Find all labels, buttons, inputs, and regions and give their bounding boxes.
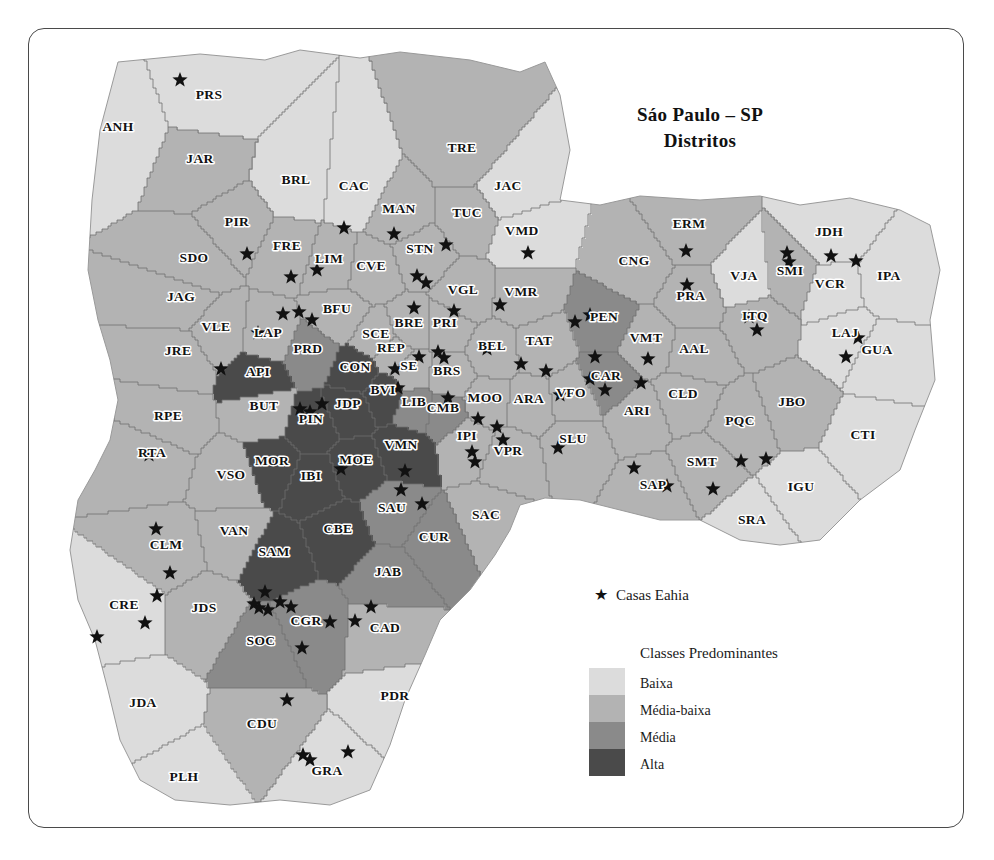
legend-class-label-2: Média [640,730,676,746]
district-label-JRE: JRE [165,343,192,358]
district-label-RPE: RPE [154,408,182,423]
legend: ★ Casas Eahia [586,584,886,606]
district-label-VPR: VPR [494,443,523,458]
district-label-IPI: IPI [457,428,477,443]
district-label-STN: STN [406,241,433,256]
district-label-SAC: SAC [472,507,500,522]
district-label-CUR: CUR [419,529,449,544]
district-label-CAR: CAR [591,368,621,383]
district-label-CBE: CBE [324,521,353,536]
district-label-IPA: IPA [877,268,900,283]
district-label-API: API [246,364,270,379]
district-label-JDH: JDH [815,224,843,239]
district-label-SRA: SRA [738,512,766,527]
legend-swatch-3 [589,749,625,776]
district-label-JDP: JDP [335,396,361,411]
district-label-JAC: JAC [494,178,521,193]
district-CAD[interactable] [342,604,517,677]
legend-point-row: ★ Casas Eahia [586,584,886,606]
district-label-IBI: IBI [301,468,322,483]
district-label-CLD: CLD [668,386,698,401]
district-label-CAC: CAC [339,178,369,193]
district-label-VJA: VJA [730,268,757,283]
district-label-VMR: VMR [504,284,537,299]
district-choropleth-map[interactable]: ANHPRSJARBRLCACTREJACMANTUCVMDPIRFRELIMC… [0,0,994,860]
district-label-CDU: CDU [247,716,277,731]
district-label-GUA: GUA [861,342,892,357]
legend-class-label-1: Média-baixa [640,703,711,719]
district-label-LAJ: LAJ [832,325,859,340]
district-label-CAD: CAD [370,620,400,635]
district-label-PLH: PLH [170,769,199,784]
district-label-JAR: JAR [186,151,213,166]
district-label-PRA: PRA [677,288,706,303]
district-label-CMB: CMB [427,400,460,415]
district-label-CNG: CNG [618,253,649,268]
district-label-ARI: ARI [624,403,650,418]
district-label-BVI: BVI [370,382,395,397]
district-label-PQC: PQC [725,413,755,428]
legend-point-label: Casas Eahia [616,587,689,604]
district-label-MOO: MOO [468,390,503,405]
district-label-JAB: JAB [375,564,402,579]
district-label-BRL: BRL [282,172,311,187]
district-label-GRA: GRA [311,763,342,778]
district-label-LAP: LAP [254,325,282,340]
district-label-VGL: VGL [448,282,478,297]
district-label-PEN: PEN [590,309,618,324]
district-label-PRI: PRI [433,315,457,330]
district-label-JDS: JDS [191,600,216,615]
district-label-VMN: VMN [384,437,417,452]
district-label-CRE: CRE [109,597,139,612]
legend-swatch-0 [589,668,625,695]
district-label-SAU: SAU [378,500,406,515]
district-label-VCR: VCR [815,276,845,291]
district-label-ITQ: ITQ [742,308,768,323]
district-label-FRE: FRE [273,238,301,253]
district-label-BRS: BRS [433,363,460,378]
legend-classes-title: Classes Predominantes [640,645,778,662]
star-icon: ★ [586,587,616,603]
district-label-TRE: TRE [448,140,477,155]
district-label-VAN: VAN [220,523,249,538]
district-label-SAM: SAM [258,544,289,559]
district-label-CLM: CLM [150,537,183,552]
district-label-VLE: VLE [202,319,231,334]
district-label-LIM: LIM [315,251,343,266]
district-label-SLU: SLU [559,431,586,446]
district-label-CON: CON [339,359,370,374]
district-label-BUT: BUT [250,398,279,413]
district-label-ERM: ERM [673,216,706,231]
district-label-REP: REP [377,340,405,355]
legend-swatches [589,668,625,776]
district-label-TUC: TUC [452,205,482,220]
legend-swatch-1 [589,695,625,722]
district-label-SDO: SDO [180,250,209,265]
district-label-VSO: VSO [217,467,246,482]
map-container: ANHPRSJARBRLCACTREJACMANTUCVMDPIRFRELIMC… [0,0,994,860]
district-label-SMT: SMT [687,454,717,469]
legend-class-label-0: Baixa [640,676,673,692]
district-label-VMD: VMD [505,223,538,238]
district-label-VMT: VMT [630,330,663,345]
district-label-CGR: CGR [290,613,321,628]
district-label-AAL: AAL [679,341,709,356]
district-label-ANH: ANH [102,119,133,134]
district-label-ARA: ARA [514,391,544,406]
district-label-SE: SE [400,358,417,373]
district-label-PDR: PDR [381,688,410,703]
district-label-RTA: RTA [138,445,166,460]
legend-class-label-3: Alta [640,757,664,773]
map-title-line2: Distritos [600,130,800,152]
district-label-SAP: SAP [640,477,667,492]
district-label-JDA: JDA [129,695,156,710]
district-label-LIB: LIB [402,394,426,409]
district-label-IGU: IGU [788,479,815,494]
district-label-TAT: TAT [526,333,553,348]
district-label-PRS: PRS [196,87,223,102]
map-title-line1: Sáo Paulo – SP [600,104,800,126]
district-label-MOR: MOR [255,453,289,468]
district-label-BRE: BRE [395,315,424,330]
district-label-SCE: SCE [362,326,389,341]
legend-swatch-2 [589,722,625,749]
